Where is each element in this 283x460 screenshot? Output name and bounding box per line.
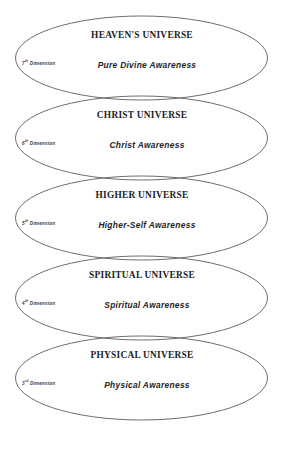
layer-title: SPIRITUAL UNIVERSE	[36, 270, 248, 280]
dimension-ordinal: rd	[25, 379, 29, 383]
layer-title: CHRIST UNIVERSE	[36, 110, 248, 120]
layer-title: HIGHER UNIVERSE	[36, 190, 248, 200]
layer-subtitle: Pure Divine Awareness	[44, 60, 250, 70]
dimension-ordinal: th	[25, 139, 29, 143]
layer-subtitle: Physical Awareness	[44, 380, 250, 390]
layer-heavens-universe: HEAVEN'S UNIVERSE 7th Dimension Pure Div…	[0, 16, 283, 102]
layer-higher-universe: HIGHER UNIVERSE 5th Dimension Higher-Sel…	[0, 176, 283, 262]
layer-title: PHYSICAL UNIVERSE	[36, 350, 248, 360]
layer-subtitle: Christ Awareness	[44, 140, 250, 150]
layer-title: HEAVEN'S UNIVERSE	[36, 30, 248, 40]
dimension-ordinal: th	[25, 59, 29, 63]
layer-christ-universe: CHRIST UNIVERSE 6th Dimension Christ Awa…	[0, 96, 283, 182]
diagram-page: HEAVEN'S UNIVERSE 7th Dimension Pure Div…	[0, 0, 283, 460]
layer-subtitle: Spiritual Awareness	[44, 300, 250, 310]
dimension-ordinal: th	[25, 299, 29, 303]
layer-spiritual-universe: SPIRITUAL UNIVERSE 4th Dimension Spiritu…	[0, 256, 283, 342]
layer-subtitle: Higher-Self Awareness	[44, 220, 250, 230]
layer-physical-universe: PHYSICAL UNIVERSE 3rd Dimension Physical…	[0, 336, 283, 422]
dimension-ordinal: th	[25, 219, 29, 223]
